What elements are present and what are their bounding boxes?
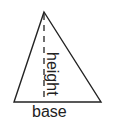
base-label: base — [32, 104, 67, 120]
height-label: height — [44, 52, 60, 96]
